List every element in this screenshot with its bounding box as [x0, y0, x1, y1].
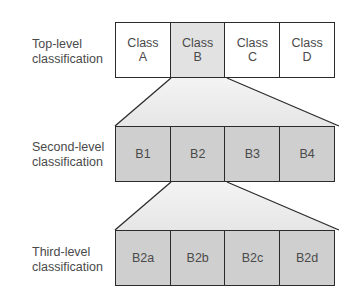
expansion-connector-b	[115, 78, 339, 126]
b2c-box: B2c	[224, 230, 280, 286]
top-level-row: Class A Class B Class C Class D	[115, 22, 339, 78]
class-b-box: Class B	[170, 22, 226, 78]
b2d-box: B2d	[279, 230, 335, 286]
second-level-row: B1 B2 B3 B4	[115, 126, 339, 182]
b1-box: B1	[115, 126, 171, 182]
b3-box: B3	[224, 126, 280, 182]
class-c-box: Class C	[224, 22, 280, 78]
b2b-box: B2b	[170, 230, 226, 286]
b2-box: B2	[170, 126, 226, 182]
class-d-box: Class D	[279, 22, 335, 78]
b4-box: B4	[279, 126, 335, 182]
level-label-second: Second-level classification	[32, 140, 104, 170]
third-level-row: B2a B2b B2c B2d	[115, 230, 339, 286]
class-a-box: Class A	[115, 22, 171, 78]
level-label-top: Top-level classification	[32, 37, 103, 67]
b2a-box: B2a	[115, 230, 171, 286]
expansion-connector-b2	[115, 182, 339, 230]
level-label-third: Third-level classification	[32, 245, 103, 275]
